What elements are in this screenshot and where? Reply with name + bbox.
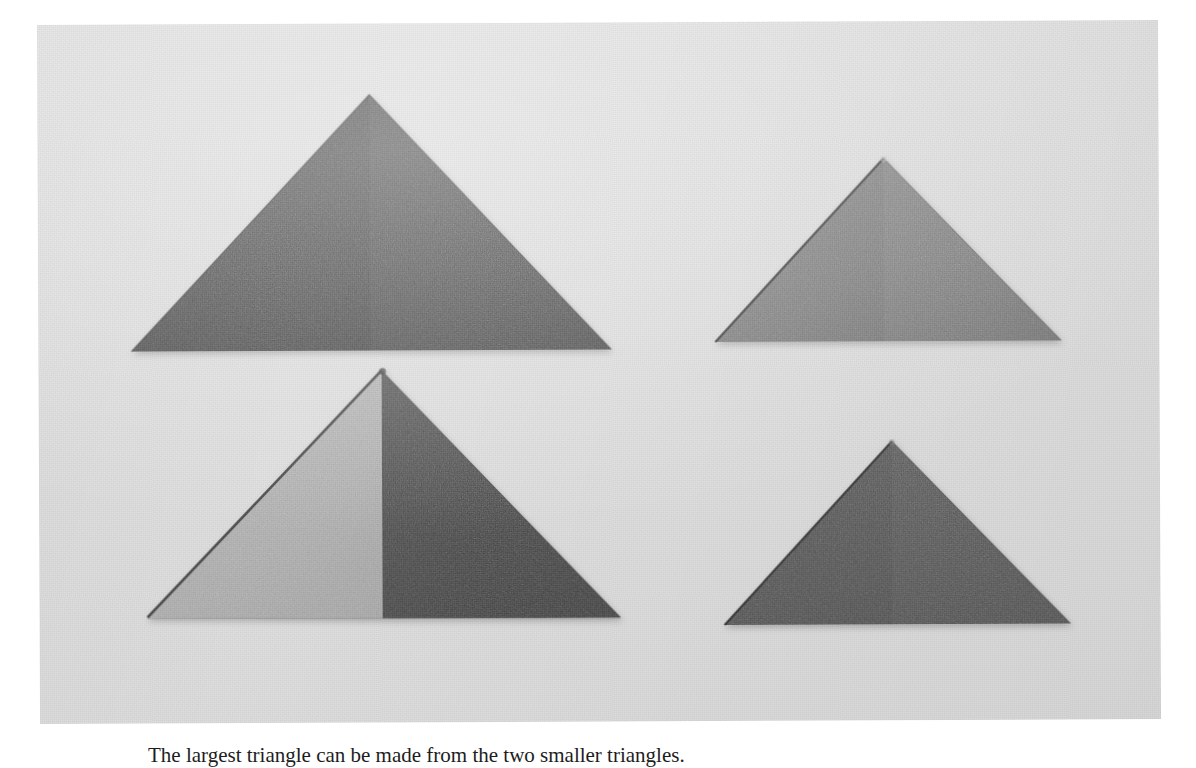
dark-gray-triangle-seam — [892, 441, 893, 625]
triangle-shapes-group — [37, 20, 1161, 724]
composite-triangle-light-half — [133, 358, 399, 634]
triangles-photograph — [37, 20, 1161, 724]
medium-gray-triangle — [703, 145, 1084, 362]
figure-caption: The largest triangle can be made from th… — [148, 742, 1048, 768]
composite-triangle — [133, 357, 634, 634]
dark-gray-triangle — [714, 428, 1095, 645]
large-dark-triangle — [117, 82, 638, 374]
